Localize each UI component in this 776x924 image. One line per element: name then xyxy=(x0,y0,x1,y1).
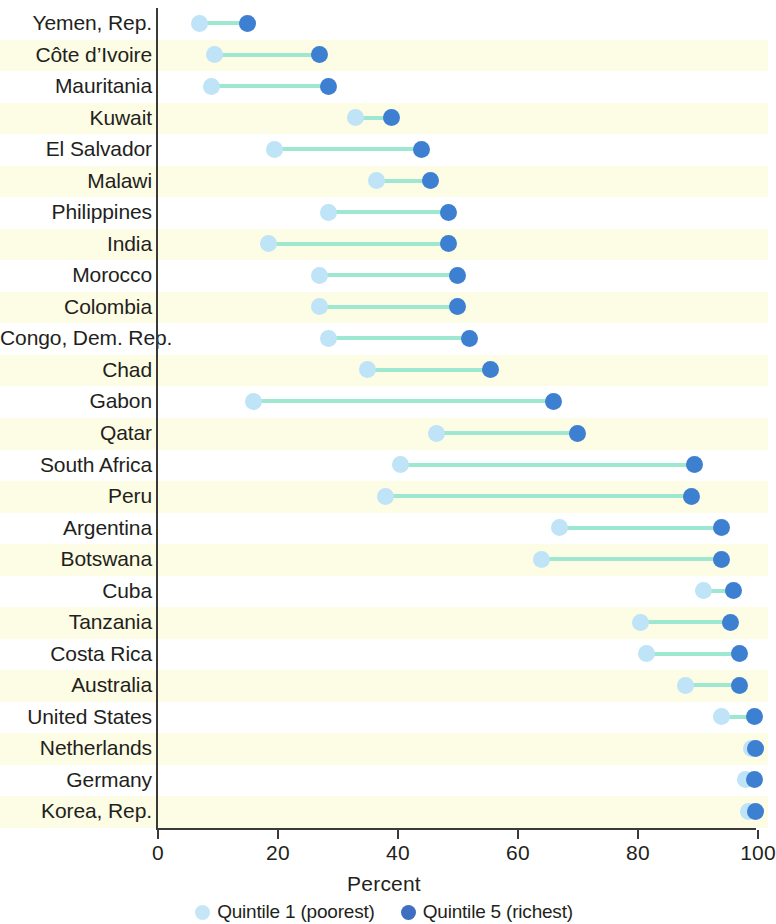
quintile5-dot[interactable] xyxy=(449,267,466,284)
quintile5-dot[interactable] xyxy=(713,519,730,536)
quintile1-dot[interactable] xyxy=(260,235,277,252)
quintile1-dot[interactable] xyxy=(206,46,223,63)
x-axis-tick xyxy=(757,830,759,839)
x-axis-tick-label: 20 xyxy=(266,841,290,865)
quintile5-dot[interactable] xyxy=(569,425,586,442)
quintile5-dot[interactable] xyxy=(686,456,703,473)
category-label: Botswana xyxy=(0,544,152,574)
legend-quintile5-swatch-icon xyxy=(401,905,416,920)
connector-line xyxy=(319,305,457,309)
dumbbell-row xyxy=(157,702,757,732)
legend-item[interactable]: Quintile 5 (richest) xyxy=(401,901,573,923)
category-label: Mauritania xyxy=(0,71,152,101)
quintile5-dot[interactable] xyxy=(320,78,337,95)
quintile1-dot[interactable] xyxy=(695,582,712,599)
connector-line xyxy=(367,368,490,372)
quintile5-dot[interactable] xyxy=(440,235,457,252)
quintile1-dot[interactable] xyxy=(359,361,376,378)
dumbbell-row xyxy=(157,513,757,543)
quintile1-dot[interactable] xyxy=(377,488,394,505)
category-label: South Africa xyxy=(0,450,152,480)
category-label: Costa Rica xyxy=(0,639,152,669)
category-label: Peru xyxy=(0,481,152,511)
dumbbell-row xyxy=(157,260,757,290)
dumbbell-row xyxy=(157,8,757,38)
connector-line xyxy=(253,399,553,403)
category-label: Cuba xyxy=(0,576,152,606)
quintile5-dot[interactable] xyxy=(722,614,739,631)
legend-label: Quintile 5 (richest) xyxy=(423,901,573,923)
dumbbell-row xyxy=(157,576,757,606)
category-label: Congo, Dem. Rep. xyxy=(0,323,152,353)
dumbbell-row xyxy=(157,481,757,511)
dumbbell-row xyxy=(157,418,757,448)
quintile5-dot[interactable] xyxy=(731,645,748,662)
quintile5-dot[interactable] xyxy=(311,46,328,63)
quintile5-dot[interactable] xyxy=(239,15,256,32)
connector-line xyxy=(211,84,328,88)
dumbbell-row xyxy=(157,197,757,227)
connector-line xyxy=(541,557,721,561)
quintile5-dot[interactable] xyxy=(746,708,763,725)
quintile5-dot[interactable] xyxy=(482,361,499,378)
category-label: Germany xyxy=(0,765,152,795)
quintile1-dot[interactable] xyxy=(638,645,655,662)
dumbbell-row xyxy=(157,71,757,101)
connector-line xyxy=(559,526,721,530)
quintile1-dot[interactable] xyxy=(677,677,694,694)
quintile1-dot[interactable] xyxy=(368,172,385,189)
quintile1-dot[interactable] xyxy=(311,298,328,315)
quintile5-dot[interactable] xyxy=(449,298,466,315)
quintile1-dot[interactable] xyxy=(392,456,409,473)
quintile5-dot[interactable] xyxy=(725,582,742,599)
dumbbell-row xyxy=(157,450,757,480)
quintile1-dot[interactable] xyxy=(245,393,262,410)
plot-area xyxy=(157,8,757,828)
quintile5-dot[interactable] xyxy=(440,204,457,221)
category-label: El Salvador xyxy=(0,134,152,164)
quintile5-dot[interactable] xyxy=(713,551,730,568)
dumbbell-row xyxy=(157,607,757,637)
dumbbell-row xyxy=(157,166,757,196)
quintile5-dot[interactable] xyxy=(413,141,430,158)
category-label: Yemen, Rep. xyxy=(0,8,152,38)
quintile1-dot[interactable] xyxy=(311,267,328,284)
dumbbell-row xyxy=(157,323,757,353)
x-axis-tick xyxy=(637,830,639,839)
category-label: Argentina xyxy=(0,513,152,543)
quintile1-dot[interactable] xyxy=(533,551,550,568)
quintile5-dot[interactable] xyxy=(383,109,400,126)
category-label: Korea, Rep. xyxy=(0,796,152,826)
dumbbell-row xyxy=(157,796,757,826)
connector-line xyxy=(385,494,691,498)
dumbbell-row xyxy=(157,134,757,164)
quintile1-dot[interactable] xyxy=(551,519,568,536)
quintile5-dot[interactable] xyxy=(683,488,700,505)
connector-line xyxy=(328,210,448,214)
quintile5-dot[interactable] xyxy=(731,677,748,694)
quintile5-dot[interactable] xyxy=(545,393,562,410)
connector-line xyxy=(328,336,469,340)
legend-item[interactable]: Quintile 1 (poorest) xyxy=(195,901,375,923)
quintile1-dot[interactable] xyxy=(320,330,337,347)
category-label: Australia xyxy=(0,670,152,700)
quintile1-dot[interactable] xyxy=(320,204,337,221)
dumbbell-row xyxy=(157,765,757,795)
quintile1-dot[interactable] xyxy=(428,425,445,442)
quintile1-dot[interactable] xyxy=(713,708,730,725)
quintile1-dot[interactable] xyxy=(203,78,220,95)
x-axis-tick-label: 80 xyxy=(626,841,650,865)
connector-line xyxy=(400,463,694,467)
quintile1-dot[interactable] xyxy=(632,614,649,631)
quintile1-dot[interactable] xyxy=(347,109,364,126)
x-axis-tick xyxy=(277,830,279,839)
dumbbell-row xyxy=(157,639,757,669)
quintile5-dot[interactable] xyxy=(461,330,478,347)
connector-line xyxy=(214,53,319,57)
category-label: Malawi xyxy=(0,166,152,196)
quintile1-dot[interactable] xyxy=(191,15,208,32)
quintile5-dot[interactable] xyxy=(746,771,763,788)
quintile5-dot[interactable] xyxy=(422,172,439,189)
quintile1-dot[interactable] xyxy=(266,141,283,158)
category-label: Colombia xyxy=(0,292,152,322)
